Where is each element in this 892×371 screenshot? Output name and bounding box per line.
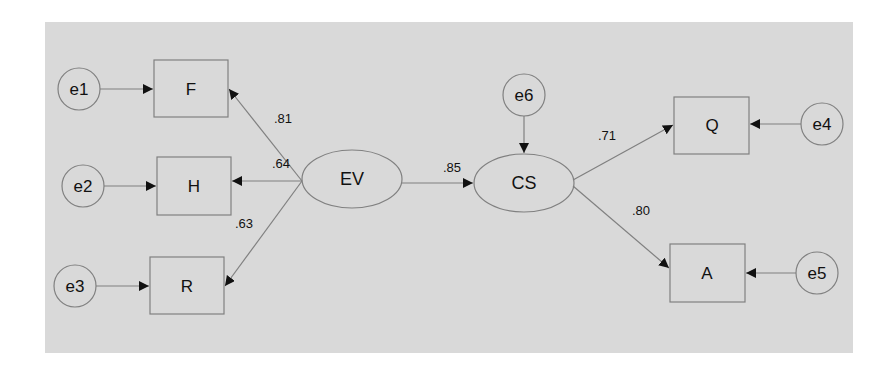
error-node-e4: e4: [801, 103, 843, 145]
coef-cs-q: .71: [598, 128, 616, 143]
path-ev-f: [229, 89, 302, 181]
error-node-e5: e5: [796, 252, 838, 294]
coef-ev-r: .63: [235, 216, 253, 231]
path-cs-q: [573, 125, 673, 180]
node-label: Q: [705, 116, 718, 135]
sem-diagram: e1 e2 e3 e4 e5 e6 F H R Q A: [0, 0, 892, 371]
node-label: e5: [808, 264, 827, 283]
coef-ev-f: .81: [274, 111, 292, 126]
node-label: e2: [74, 177, 93, 196]
node-label: e3: [66, 277, 85, 296]
node-label: CS: [511, 173, 536, 193]
observed-node-q: Q: [674, 97, 749, 154]
node-label: e6: [515, 86, 534, 105]
coef-ev-cs: .85: [443, 160, 461, 175]
node-label: A: [701, 264, 713, 283]
path-ev-r: [225, 181, 302, 286]
latent-node-cs: CS: [474, 154, 574, 212]
error-node-e2: e2: [62, 165, 104, 207]
error-node-e1: e1: [58, 68, 100, 110]
latent-node-ev: EV: [302, 150, 402, 208]
observed-node-f: F: [154, 60, 228, 117]
observed-node-h: H: [157, 157, 231, 215]
path-cs-a: [573, 186, 669, 268]
node-label: F: [186, 80, 196, 99]
node-label: e4: [813, 115, 832, 134]
node-label: H: [188, 177, 200, 196]
node-label: e1: [70, 80, 89, 99]
observed-node-a: A: [670, 244, 745, 302]
error-node-e6: e6: [503, 74, 545, 116]
coef-cs-a: .80: [632, 203, 650, 218]
observed-node-r: R: [150, 257, 224, 314]
error-node-e3: e3: [54, 265, 96, 307]
coef-ev-h: .64: [272, 156, 290, 171]
node-label: EV: [340, 169, 364, 189]
node-label: R: [181, 277, 193, 296]
